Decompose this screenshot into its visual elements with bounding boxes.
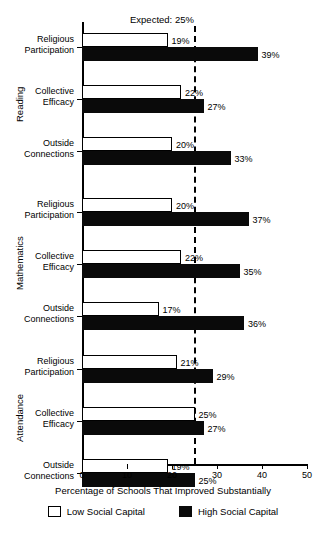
x-tick-label: 20 [160,470,184,480]
category-label-line1: Outside [8,460,74,471]
category-label-line1: Religious [8,199,74,210]
category-label-line2: Participation [8,45,74,56]
bar-value-label: 35% [244,267,262,277]
panel-label-reading: Reading [14,87,25,122]
bar-low-social-capital [82,198,172,212]
bar-low-social-capital [82,355,177,369]
bar-low-social-capital [82,250,181,264]
x-tick [127,464,128,469]
bar-value-label: 19% [172,36,190,46]
bar-low-social-capital [82,137,172,151]
legend-label-high: High Social Capital [198,506,278,517]
bar-low-social-capital [82,33,168,47]
bar-value-label: 21% [181,358,199,368]
x-tick-label: 50 [295,470,319,480]
category-tick [77,47,82,48]
panel-label-mathematics: Mathematics [14,236,25,290]
category-label: OutsideConnections [8,138,74,159]
legend-item-low: Low Social Capital [48,506,145,517]
category-label-line1: Religious [8,34,74,45]
x-tick-label: 40 [250,470,274,480]
bar-high-social-capital [82,369,213,383]
category-label-line2: Connections [8,314,74,325]
bar-low-social-capital [82,302,159,316]
legend-swatch-low-icon [48,506,61,517]
legend-swatch-high-icon [179,506,192,517]
bar-value-label: 20% [176,140,194,150]
category-tick [77,212,82,213]
category-label: ReligiousParticipation [8,356,74,377]
category-tick [77,369,82,370]
category-tick [77,151,82,152]
category-label-line2: Connections [8,471,74,482]
bar-value-label: 39% [262,50,280,60]
bar-value-label: 37% [253,215,271,225]
bar-low-social-capital [82,85,181,99]
x-axis-title: Percentage of Schools That Improved Subs… [0,485,326,496]
bar-value-label: 22% [185,253,203,263]
bar-high-social-capital [82,316,244,330]
bar-high-social-capital [82,47,258,61]
legend-item-high: High Social Capital [179,506,278,517]
x-tick-label: 10 [115,470,139,480]
x-tick [307,464,308,469]
bar-value-label: 22% [185,88,203,98]
x-tick [82,464,83,469]
category-label: OutsideConnections [8,303,74,324]
bar-value-label: 17% [163,305,181,315]
category-tick [77,316,82,317]
bar-value-label: 33% [235,154,253,164]
category-label-line1: Outside [8,138,74,149]
category-label: OutsideConnections [8,460,74,481]
bar-high-social-capital [82,212,249,226]
bar-value-label: 29% [217,372,235,382]
bar-value-label: 36% [248,319,266,329]
x-tick [172,464,173,469]
expected-line-label: Expected: 25% [130,14,194,25]
category-label-line2: Participation [8,367,74,378]
bar-value-label: 25% [199,410,217,420]
bar-high-social-capital [82,421,204,435]
category-label-line1: Outside [8,303,74,314]
bar-value-label: 20% [176,201,194,211]
x-tick-label: 30 [205,470,229,480]
chart-figure: Expected: 25% 19%39%ReligiousParticipati… [0,0,326,534]
category-tick [77,99,82,100]
category-tick [77,264,82,265]
bar-high-social-capital [82,99,204,113]
x-tick [262,464,263,469]
bar-low-social-capital [82,407,195,421]
bar-high-social-capital [82,151,231,165]
panel-label-attendance: Attendance [14,394,25,442]
chart-legend: Low Social Capital High Social Capital [0,506,326,517]
category-label-line1: Religious [8,356,74,367]
category-label: ReligiousParticipation [8,34,74,55]
category-label: ReligiousParticipation [8,199,74,220]
x-tick-label: 0 [70,470,94,480]
bar-value-label: 27% [208,102,226,112]
bar-value-label: 27% [208,424,226,434]
category-label-line2: Connections [8,149,74,160]
bar-high-social-capital [82,264,240,278]
category-label-line2: Participation [8,210,74,221]
legend-label-low: Low Social Capital [67,506,145,517]
x-tick [217,464,218,469]
category-tick [77,421,82,422]
